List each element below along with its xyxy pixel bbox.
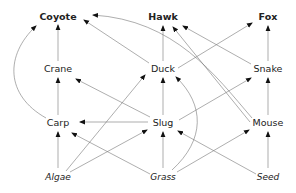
node-snake: Snake: [254, 63, 283, 74]
edge-duck-to-coyote: [84, 20, 149, 63]
edge-seed-to-slug: [178, 131, 256, 174]
node-algae: Algae: [44, 172, 71, 182]
edge-snake-to-hawk: [183, 26, 251, 64]
edge-slug-to-snake: [179, 78, 251, 120]
node-coyote: Coyote: [39, 11, 76, 22]
edge-mouse-to-hawk: [173, 27, 250, 122]
edge-algae-to-duck: [66, 75, 145, 171]
node-mouse: Mouse: [253, 117, 284, 128]
edge-slug-to-crane: [76, 79, 150, 117]
edge-carp-to-coyote: [14, 26, 46, 118]
node-hawk: Hawk: [148, 11, 178, 22]
node-grass: Grass: [150, 172, 176, 182]
food-web-diagram: CoyoteHawkFoxCraneDuckSnakeCarpSlugMouse…: [0, 0, 296, 193]
node-slug: Slug: [153, 117, 174, 128]
node-seed: Seed: [257, 172, 280, 182]
node-fox: Fox: [259, 11, 278, 22]
edge-grass-to-duck: [172, 77, 197, 170]
nodes-group: CoyoteHawkFoxCraneDuckSnakeCarpSlugMouse…: [39, 11, 283, 182]
node-carp: Carp: [47, 117, 69, 128]
edges-group: [14, 15, 268, 174]
edge-grass-to-carp: [72, 133, 150, 174]
edge-algae-to-slug: [70, 130, 147, 172]
node-duck: Duck: [151, 63, 176, 74]
node-crane: Crane: [44, 63, 72, 74]
